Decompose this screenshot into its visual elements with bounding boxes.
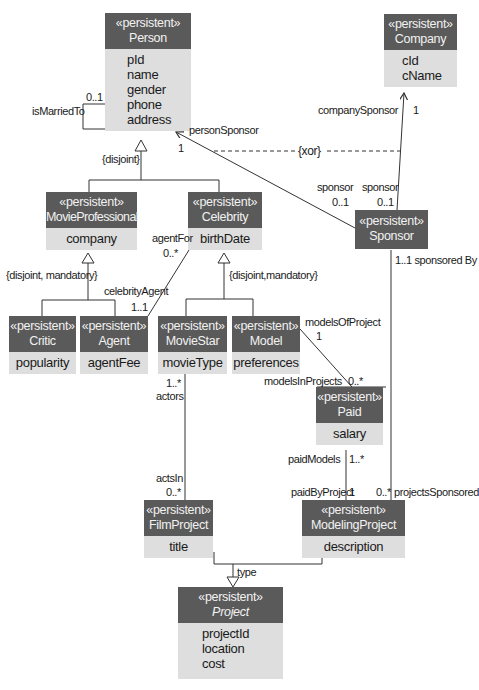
attribute-list: preferences: [232, 352, 300, 374]
class-model[interactable]: «persistent» Model preferences: [232, 316, 300, 374]
class-name: Sponsor: [355, 229, 428, 244]
label-disjoint-mandatory-right: {disjoint,mandatory}: [229, 269, 318, 281]
label-models-in-projects: modelsInProjects: [264, 375, 342, 387]
attribute-list: movieType: [158, 352, 227, 374]
class-header: «persistent» MovieStar: [158, 316, 227, 352]
class-name: Agent: [80, 334, 148, 349]
class-paid[interactable]: «persistent» Paid salary: [316, 387, 383, 445]
label-agent-for-mult: 0..*: [163, 247, 178, 259]
attribute: pId: [105, 52, 191, 67]
label-sponsor-role-1: sponsor: [317, 181, 353, 193]
label-acts-in-mult: 0..*: [166, 486, 181, 498]
class-sponsor[interactable]: «persistent» Sponsor: [355, 210, 428, 249]
label-paid-models: paidModels: [288, 453, 340, 465]
label-projects-sponsored: projectsSponsored: [394, 486, 479, 498]
label-person-sponsor: personSponsor: [189, 124, 258, 136]
attribute-list: projectId location cost: [178, 623, 283, 679]
class-name: FilmProject: [144, 518, 213, 533]
label-disjoint-mandatory-left: {disjoint, mandatory}: [6, 269, 97, 281]
class-name: MovieProfessional: [46, 210, 137, 225]
label-projects-sponsored-mult: 0..*: [376, 486, 391, 498]
attribute-list: title: [144, 536, 213, 558]
class-name: Person: [105, 31, 191, 46]
attribute-list: company: [46, 228, 137, 250]
stereotype: «persistent»: [316, 390, 383, 405]
stereotype: «persistent»: [9, 319, 76, 334]
label-models-of-project: modelsOfProject: [305, 316, 380, 328]
stereotype: «persistent»: [232, 319, 300, 334]
attribute: popularity: [9, 355, 76, 370]
attribute: preferences: [232, 355, 300, 370]
label-sponsor-role-2: sponsor: [362, 181, 398, 193]
label-models-in-projects-mult: 0..*: [348, 375, 363, 387]
class-movie-professional[interactable]: «persistent» MovieProfessional company: [46, 192, 137, 250]
label-acts-in: actsIn: [156, 472, 183, 484]
attribute-list: salary: [316, 423, 383, 445]
label-paid-by-project-mult: 1: [349, 486, 355, 498]
label-sponsored-by: 1..1 sponsored By: [395, 254, 477, 266]
attribute-list: cId cName: [384, 50, 457, 87]
attribute-list: description: [302, 536, 405, 558]
attribute-list: popularity: [9, 352, 76, 374]
attribute: company: [46, 231, 137, 246]
class-header: «persistent» FilmProject: [144, 500, 213, 536]
label-sponsor-mult-2: 0..1: [377, 196, 394, 208]
class-celebrity[interactable]: «persistent» Celebrity birthDate: [188, 192, 262, 250]
label-married-mult: 0..1: [86, 91, 103, 103]
class-name: Critic: [9, 334, 76, 349]
attribute: location: [178, 641, 283, 656]
attribute-list: pId name gender phone address: [105, 49, 191, 131]
stereotype: «persistent»: [46, 195, 137, 210]
class-name: Project: [178, 605, 283, 620]
attribute: projectId: [178, 626, 283, 641]
class-header: «persistent» Person: [105, 13, 191, 49]
attribute: cId: [384, 53, 457, 68]
label-is-married-to: isMarriedTo: [32, 105, 84, 117]
attribute: address: [105, 112, 191, 127]
label-xor: {xor}: [298, 145, 321, 157]
attribute: salary: [316, 426, 383, 441]
class-film-project[interactable]: «persistent» FilmProject title: [144, 500, 213, 558]
class-name: Model: [232, 334, 300, 349]
class-name: ModelingProject: [302, 518, 405, 533]
class-company[interactable]: «persistent» Company cId cName: [384, 14, 457, 87]
class-agent[interactable]: «persistent» Agent agentFee: [80, 316, 148, 374]
stereotype: «persistent»: [105, 16, 191, 31]
class-header: «persistent» Paid: [316, 387, 383, 423]
class-modeling-project[interactable]: «persistent» ModelingProject description: [302, 500, 405, 558]
class-person[interactable]: «persistent» Person pId name gender phon…: [105, 13, 191, 131]
label-celebrity-agent: celebrityAgent: [104, 285, 168, 297]
attribute: gender: [105, 82, 191, 97]
class-header: «persistent» Agent: [80, 316, 148, 352]
attribute: movieType: [158, 355, 227, 370]
label-company-sponsor: companySponsor: [318, 104, 398, 116]
label-sponsor-mult-1: 0..1: [332, 196, 349, 208]
attribute: cost: [178, 656, 283, 671]
stereotype: «persistent»: [178, 590, 283, 605]
stereotype: «persistent»: [158, 319, 227, 334]
attribute-list: birthDate: [188, 228, 262, 250]
label-paid-models-mult: 1..*: [349, 453, 364, 465]
class-header: «persistent» Company: [384, 14, 457, 50]
class-header: «persistent» Sponsor: [355, 210, 428, 249]
stereotype: «persistent»: [302, 503, 405, 518]
label-celebrity-agent-mult: 1..1: [131, 301, 148, 313]
label-actors-mult: 1..*: [166, 377, 181, 389]
attribute-list: agentFee: [80, 352, 148, 374]
label-paid-by-project: paidByProject: [291, 486, 354, 498]
class-name: MovieStar: [158, 334, 227, 349]
class-header: «persistent» Celebrity: [188, 192, 262, 228]
class-name: Paid: [316, 405, 383, 420]
label-agent-for: agentFor: [152, 232, 193, 244]
class-project[interactable]: «persistent» Project projectId location …: [178, 587, 283, 679]
class-movie-star[interactable]: «persistent» MovieStar movieType: [158, 316, 227, 374]
label-type: type: [237, 566, 256, 578]
attribute: description: [302, 539, 405, 554]
stereotype: «persistent»: [144, 503, 213, 518]
class-critic[interactable]: «persistent» Critic popularity: [9, 316, 76, 374]
label-person-sponsor-mult: 1: [178, 142, 184, 154]
attribute: title: [144, 539, 213, 554]
class-header: «persistent» Critic: [9, 316, 76, 352]
class-name: Company: [384, 32, 457, 47]
attribute: agentFee: [80, 355, 148, 370]
